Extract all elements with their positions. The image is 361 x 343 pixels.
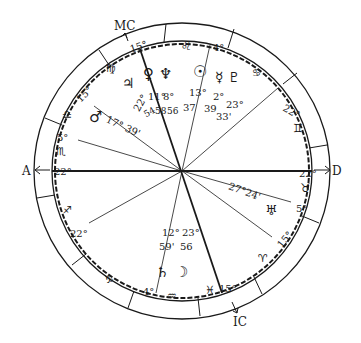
aquarius-cusp-degree: 4° (143, 286, 154, 297)
mercury-degree: 2° (213, 91, 224, 102)
sagittarius-cusp-degree: 22° (70, 228, 88, 239)
mars-degree: 17° 39' (104, 114, 142, 139)
taurus-cusp-degree-2: 5° (296, 203, 307, 214)
saturn-minutes: 59' (159, 241, 174, 252)
pluto-glyph: ♇ (228, 69, 241, 85)
sun-minutes: 37 (183, 102, 196, 113)
pluto-minutes: 33' (216, 111, 231, 122)
moon-glyph: ☽ (175, 263, 188, 281)
venus-minutes: 58 (155, 106, 167, 116)
pisces-glyph: ♓ (205, 284, 215, 297)
ic-label: IC (233, 315, 247, 329)
jupiter-glyph: ♃ (122, 75, 135, 91)
libra-glyph: ♎ (62, 108, 72, 121)
moon-minutes: 56 (180, 241, 193, 252)
aquarius-glyph: ♒ (167, 290, 177, 303)
mercury-minutes: 39 (204, 103, 217, 114)
uranus-glyph: ♅ (265, 202, 278, 218)
taurus-cusp-degree: 22° (299, 168, 317, 179)
pluto-degree: 23° (226, 99, 244, 110)
uranus-degree: 27°24' (227, 181, 262, 203)
gemini-glyph: ♊ (293, 122, 303, 135)
neptune-degree: 8° (163, 91, 174, 102)
gemini-cusp-degree: 22° (281, 102, 302, 120)
virgo-glyph: ♍ (106, 62, 116, 75)
aries-cusp-degree: 15° (275, 229, 295, 250)
sun-glyph: ☉ (193, 62, 207, 81)
desc-label: D (332, 164, 342, 178)
pisces-cusp-degree: 15° (219, 283, 237, 294)
sun-degree: 13° (189, 87, 207, 98)
asc-arrow (35, 166, 50, 174)
natal-chart-wheel: MC IC A D 15° ♍ ♌ 4° ♋ 22° ♊ 22° ♉ 5° 15… (0, 0, 361, 343)
capricorn-glyph: ♑ (104, 273, 114, 286)
neptune-minutes: 56 (167, 106, 179, 116)
virgo-cusp-degree: 15° (128, 39, 148, 55)
mercury-glyph: ☿ (215, 69, 224, 85)
aries-glyph: ♈ (258, 252, 268, 265)
leo-cusp-degree: 4° (213, 42, 224, 53)
scorpio-cusp-degree-2: 5° (57, 132, 68, 143)
leo-glyph: ♌ (181, 39, 192, 53)
saturn-glyph: ♄ (156, 264, 169, 280)
scorpio-glyph: ♏ (56, 145, 66, 158)
saturn-degree: 12° (162, 227, 180, 238)
taurus-glyph: ♉ (300, 181, 311, 195)
neptune-glyph: ♆ (159, 65, 172, 83)
cancer-glyph: ♋ (252, 67, 261, 78)
sagittarius-glyph: ♐ (63, 204, 72, 215)
scorpio-cusp-degree: 22° (54, 166, 72, 177)
libra-cusp-degree: 15° (74, 84, 94, 104)
venus-glyph: ♀ (143, 65, 154, 83)
moon-degree: 23° (182, 227, 200, 238)
ic-arrow (232, 302, 238, 313)
mars-glyph: ♂ (89, 108, 102, 126)
asc-label: A (21, 164, 31, 178)
mc-label: MC (114, 19, 135, 33)
